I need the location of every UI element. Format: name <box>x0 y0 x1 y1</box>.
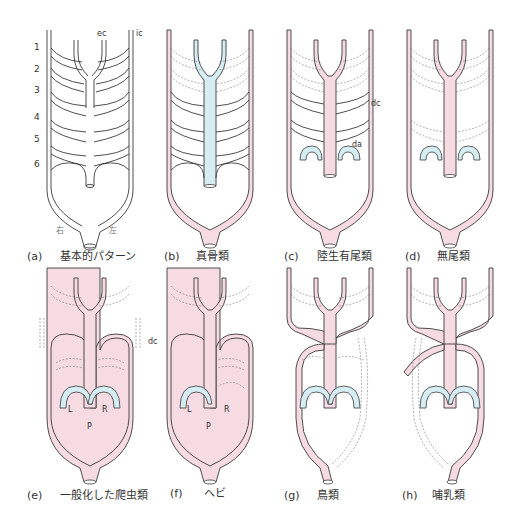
label-L-e: L <box>68 406 72 414</box>
caption-h: 哺乳類 <box>432 490 465 501</box>
caption-letter-g: (g) <box>284 490 300 501</box>
caption-f: ヘビ <box>204 488 226 499</box>
caption-c: 陸生有尾類 <box>317 251 372 262</box>
caption-a: 基本的パターン <box>60 251 136 262</box>
label-R-f: R <box>224 406 230 414</box>
arch-number-2: 2 <box>34 65 40 74</box>
label-da-c: da <box>352 141 362 149</box>
label-dc-f: dc <box>148 338 157 346</box>
caption-b: 真骨類 <box>196 251 229 262</box>
panel-g-drawing <box>287 268 373 484</box>
label-ic: ic <box>136 30 143 38</box>
panel-d-drawing <box>407 30 493 248</box>
caption-letter-h: (h) <box>402 490 418 501</box>
caption-letter-d: (d) <box>405 251 421 262</box>
panel-a-drawing <box>47 30 133 250</box>
caption-letter-f: (f) <box>170 488 182 499</box>
label-P-e: P <box>87 423 92 431</box>
label-ec: ec <box>97 30 106 38</box>
panel-c-drawing <box>287 30 373 248</box>
caption-letter-b: (b) <box>164 251 180 262</box>
panel-b-drawing <box>167 30 253 248</box>
panel-f-drawing <box>167 268 253 484</box>
label-left: 左 <box>109 227 117 235</box>
caption-e: 一般化した爬虫類 <box>60 490 148 501</box>
label-R-e: R <box>102 406 108 414</box>
caption-letter-e: (e) <box>27 490 42 501</box>
caption-g: 鳥類 <box>317 490 339 501</box>
panel-e-drawing <box>40 268 140 484</box>
caption-letter-a: (a) <box>27 251 42 262</box>
label-P-f: P <box>206 423 211 431</box>
label-L-f: L <box>187 406 191 414</box>
arch-number-5: 5 <box>34 135 40 144</box>
aortic-arch-diagram <box>0 0 518 528</box>
label-dc-c: dc <box>371 100 380 108</box>
arch-number-4: 4 <box>34 113 40 122</box>
arch-number-1: 1 <box>34 43 40 52</box>
arch-number-6: 6 <box>34 160 40 169</box>
panel-h-drawing <box>404 268 493 484</box>
label-right: 右 <box>56 227 64 235</box>
arch-number-3: 3 <box>34 86 40 95</box>
caption-d: 無尾類 <box>437 251 470 262</box>
caption-letter-c: (c) <box>284 251 299 262</box>
